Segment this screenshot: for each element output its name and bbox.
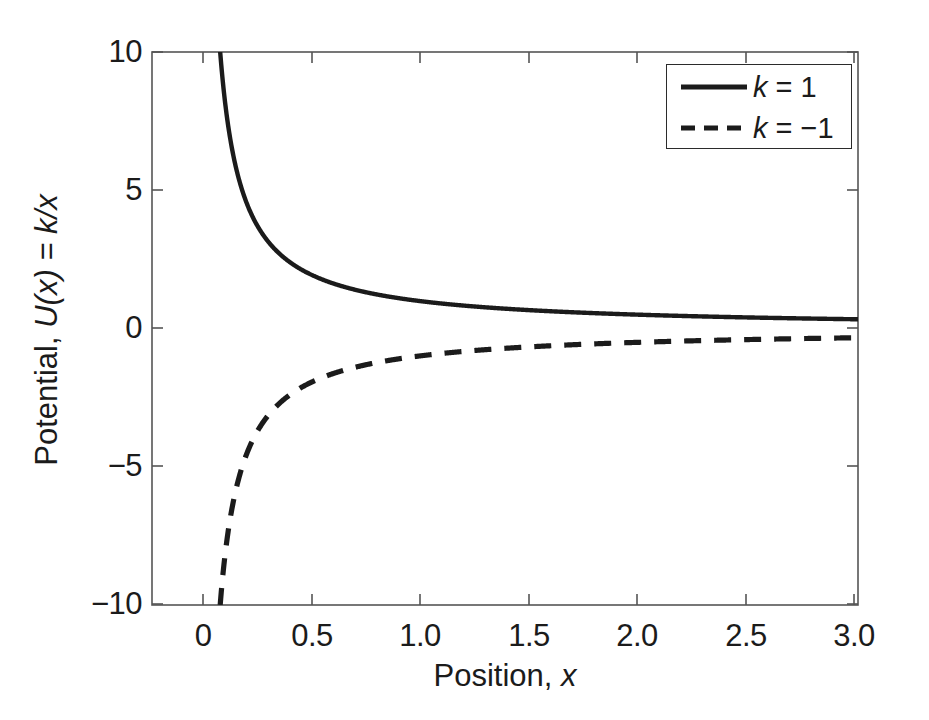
x-axis-title-plain: Position, <box>433 658 561 693</box>
x-axis-title-italic: x <box>561 658 577 693</box>
x-tick-label-1: 0.5 <box>291 618 333 654</box>
y-axis-title-plain: Potential, <box>29 328 64 466</box>
legend-label-solid: k = 1 <box>753 71 817 104</box>
figure-canvas: 0 0.5 1.0 1.5 2.0 2.5 3.0 10 5 0 −5 −10 … <box>0 0 929 720</box>
x-tick-label-2: 1.0 <box>399 618 441 654</box>
y-tick-label-0: 10 <box>109 34 142 70</box>
x-tick-label-3: 1.5 <box>508 618 550 654</box>
y-axis-title: Potential, U(x) = k/x <box>29 194 65 465</box>
legend-label-dashed-value: = −1 <box>768 112 834 144</box>
legend-item-solid: k = 1 <box>667 66 851 108</box>
y-tick-label-4: −10 <box>91 586 142 622</box>
y-tick-label-1: 5 <box>125 172 142 208</box>
x-tick-label-5: 2.5 <box>725 618 767 654</box>
x-axis-title: Position, x <box>433 658 576 694</box>
legend: k = 1 k = −1 <box>666 64 852 149</box>
legend-label-dashed-symbol: k <box>753 112 768 144</box>
legend-label-solid-symbol: k <box>753 71 768 103</box>
legend-label-dashed: k = −1 <box>753 112 834 145</box>
legend-line-solid-icon <box>679 77 749 97</box>
y-tick-label-2: 0 <box>125 310 142 346</box>
x-tick-label-6: 3.0 <box>833 618 875 654</box>
legend-label-solid-value: = 1 <box>768 71 817 103</box>
y-tick-label-3: −5 <box>108 448 142 484</box>
x-tick-label-4: 2.0 <box>616 618 658 654</box>
x-tick-label-0: 0 <box>195 618 212 654</box>
legend-line-dashed-icon <box>679 118 749 138</box>
y-axis-title-italic: U(x) = k/x <box>29 194 64 327</box>
legend-item-dashed: k = −1 <box>667 107 851 149</box>
